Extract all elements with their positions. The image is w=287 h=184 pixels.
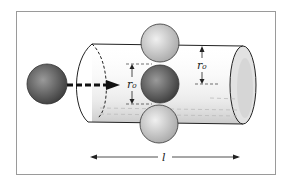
collision-cylinder-diagram: r₀ r₀ l bbox=[0, 0, 287, 184]
radius-label-center: r₀ bbox=[127, 78, 137, 91]
target-molecule-center bbox=[141, 65, 179, 103]
incoming-molecule bbox=[27, 64, 67, 104]
length-label: l bbox=[162, 151, 166, 164]
target-molecule-bottom bbox=[140, 105, 178, 143]
length-dimension: l bbox=[90, 151, 240, 164]
target-molecule-top bbox=[141, 24, 179, 62]
radius-label-right: r₀ bbox=[197, 59, 207, 72]
